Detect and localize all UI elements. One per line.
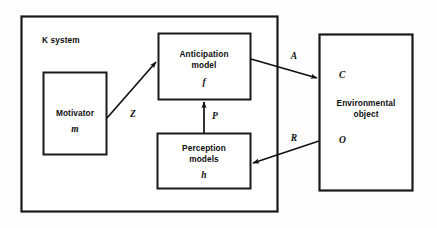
block-diagram: K system Motivator m Anticipation model … (0, 0, 437, 228)
environmental-object-label-line2: object (353, 109, 378, 119)
k-system-label: K system (42, 35, 80, 45)
edge-label-z: Z (129, 109, 136, 119)
edge-label-p: P (212, 111, 218, 121)
environment-symbol-o: O (339, 135, 346, 145)
motivator-symbol: m (71, 124, 78, 134)
environment-symbol-c: C (339, 70, 346, 80)
anticipation-model-label-line2: model (192, 60, 217, 70)
edge-label-a: A (290, 51, 297, 61)
environmental-object-label-line1: Environmental (337, 98, 396, 108)
diagram-canvas: K system Motivator m Anticipation model … (0, 0, 437, 228)
anticipation-model-label-line1: Anticipation (179, 49, 228, 59)
motivator-label: Motivator (56, 108, 95, 118)
perception-models-symbol: h (201, 170, 206, 180)
perception-models-label-line2: models (189, 154, 219, 164)
edge-label-r: R (290, 133, 297, 143)
perception-models-label-line1: Perception (182, 143, 226, 153)
